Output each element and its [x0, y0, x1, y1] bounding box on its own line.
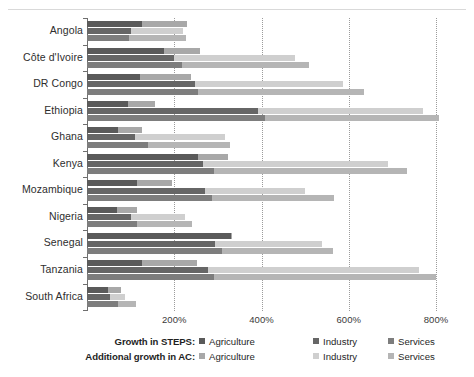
bar-segment-additional-ac	[212, 195, 334, 201]
y-axis-tick	[83, 257, 88, 258]
category-label: Ghana	[51, 130, 83, 142]
y-axis-tick	[83, 177, 88, 178]
bar-segment-steps	[87, 35, 129, 41]
bar-segment-additional-ac	[117, 207, 137, 213]
bar-agriculture	[87, 154, 228, 160]
x-axis-tick-label: 800%	[406, 314, 466, 325]
bar-segment-additional-ac	[215, 241, 322, 247]
bar-services	[87, 221, 192, 227]
legend-item-industry[interactable]: Industry	[313, 350, 357, 363]
bar-segment-additional-ac	[198, 89, 364, 95]
bar-segment-steps	[87, 21, 142, 27]
bar-agriculture	[87, 101, 155, 107]
legend-item-label: Agriculture	[209, 336, 255, 347]
bar-segment-additional-ac	[258, 108, 423, 114]
bar-segment-additional-ac	[174, 55, 295, 61]
bar-segment-additional-ac	[265, 115, 439, 121]
bar-segment-steps	[87, 127, 118, 133]
bar-segment-steps	[87, 62, 182, 68]
bar-segment-steps	[87, 48, 164, 54]
bar-agriculture	[87, 207, 137, 213]
bar-segment-additional-ac	[214, 274, 436, 280]
legend-swatch-icon	[199, 338, 205, 344]
bar-segment-steps	[87, 248, 222, 254]
bar-segment-steps	[87, 74, 140, 80]
bar-segment-additional-ac	[208, 267, 419, 273]
y-axis-tick	[83, 124, 88, 125]
legend-item-label: Industry	[323, 351, 357, 362]
bar-segment-steps	[87, 161, 203, 167]
legend-item-label: Industry	[323, 336, 357, 347]
y-axis-tick	[83, 284, 88, 285]
bar-industry	[87, 81, 343, 87]
x-axis-tick-label: 200%	[144, 314, 204, 325]
bar-segment-steps	[87, 89, 198, 95]
bar-segment-additional-ac	[198, 154, 228, 160]
bar-services	[87, 62, 309, 68]
y-axis-tick	[83, 151, 88, 152]
bar-segment-additional-ac	[135, 134, 225, 140]
y-axis-tick	[83, 45, 88, 46]
bar-segment-steps	[87, 214, 131, 220]
x-axis-tick-label: 600%	[319, 314, 379, 325]
bar-segment-steps	[87, 267, 208, 273]
bar-segment-steps	[87, 55, 174, 61]
bar-industry	[87, 55, 295, 61]
legend-item-services[interactable]: Services	[388, 335, 435, 348]
bar-industry	[87, 267, 419, 273]
bar-industry	[87, 241, 322, 247]
bar-agriculture	[87, 127, 142, 133]
bar-segment-steps	[87, 241, 215, 247]
legend-item-services[interactable]: Services	[388, 350, 435, 363]
bar-segment-steps	[87, 260, 142, 266]
bar-services	[87, 248, 333, 254]
bar-segment-additional-ac	[142, 21, 187, 27]
bar-segment-additional-ac	[108, 287, 122, 293]
bar-segment-additional-ac	[131, 214, 185, 220]
legend-swatch-icon	[388, 338, 394, 344]
legend-swatch-icon	[313, 338, 319, 344]
bar-industry	[87, 294, 125, 300]
legend-swatch-icon	[388, 353, 394, 359]
bar-segment-additional-ac	[118, 127, 143, 133]
bar-segment-steps	[87, 274, 214, 280]
legend-swatch-icon	[313, 353, 319, 359]
bar-segment-steps	[87, 115, 265, 121]
legend-item-agriculture[interactable]: Agriculture	[199, 350, 255, 363]
bar-agriculture	[87, 180, 172, 186]
bar-segment-additional-ac	[142, 260, 196, 266]
bar-services	[87, 115, 439, 121]
bar-segment-steps	[87, 134, 135, 140]
legend-item-agriculture[interactable]: Agriculture	[199, 335, 255, 348]
y-axis-tick	[83, 310, 88, 311]
bar-agriculture	[87, 74, 191, 80]
bar-segment-additional-ac	[205, 188, 305, 194]
category-label: Angola	[50, 24, 83, 36]
bar-segment-steps	[87, 101, 128, 107]
bar-segment-steps	[87, 294, 110, 300]
bar-services	[87, 35, 186, 41]
bar-industry	[87, 161, 388, 167]
category-label: Nigeria	[49, 210, 83, 222]
y-axis-tick	[83, 18, 88, 19]
bar-industry	[87, 214, 185, 220]
bar-segment-additional-ac	[203, 161, 389, 167]
y-axis-tick	[83, 71, 88, 72]
chart-legend: Growth in STEPS:AgricultureIndustryServi…	[0, 334, 474, 374]
bar-services	[87, 274, 436, 280]
bar-segment-steps	[87, 81, 195, 87]
bar-industry	[87, 188, 305, 194]
bar-services	[87, 142, 230, 148]
bar-segment-steps	[87, 188, 205, 194]
bar-industry	[87, 134, 225, 140]
legend-item-industry[interactable]: Industry	[313, 335, 357, 348]
category-label: Senegal	[44, 236, 83, 248]
bar-segment-additional-ac	[182, 62, 309, 68]
bar-segment-additional-ac	[214, 168, 407, 174]
legend-item-label: Services	[398, 336, 435, 347]
category-label: DR Congo	[33, 77, 83, 89]
bar-segment-additional-ac	[137, 221, 192, 227]
bar-agriculture	[87, 233, 232, 239]
y-axis-tick	[83, 230, 88, 231]
bar-segment-additional-ac	[231, 233, 232, 239]
